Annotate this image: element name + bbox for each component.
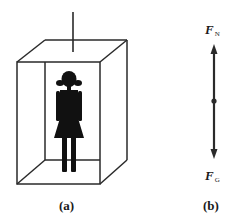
bottom-left-diagonal [17, 160, 45, 184]
normal-force-subscript: N [215, 30, 220, 38]
bottom-right-diagonal [100, 160, 127, 184]
gravity-force-subscript: G [215, 176, 220, 184]
arrow-down-icon [211, 149, 218, 159]
top-left-diagonal [17, 40, 45, 62]
center-of-mass-dot [211, 98, 216, 103]
arrow-up-icon [211, 44, 218, 54]
diagram-canvas [0, 0, 233, 224]
normal-force-label: FN [205, 22, 220, 38]
gravity-force-symbol: F [205, 168, 214, 183]
gravity-force-label: FG [205, 168, 220, 184]
free-body-diagram [211, 44, 218, 159]
caption-a: (a) [59, 198, 74, 214]
top-right-diagonal [100, 40, 127, 62]
caption-b: (b) [203, 198, 219, 214]
person-figure-icon [54, 71, 84, 172]
normal-force-symbol: F [205, 22, 214, 37]
